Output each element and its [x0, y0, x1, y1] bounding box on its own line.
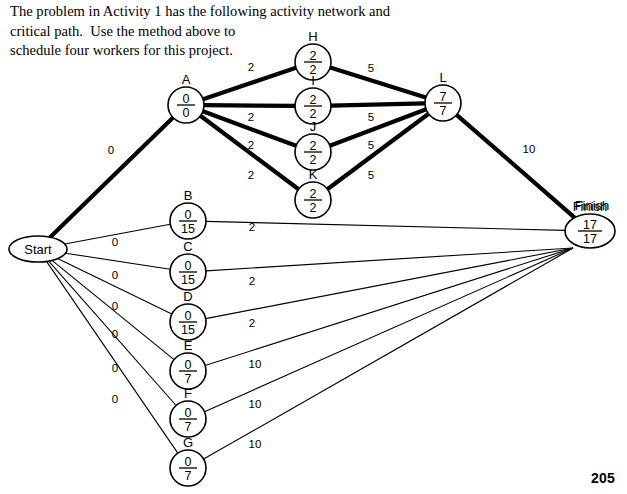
node-earliest-C: 0	[185, 259, 192, 273]
node-latest-K: 2	[310, 201, 317, 215]
node-earliest-A: 0	[183, 92, 190, 106]
edge-weight-D-finish: 2	[249, 317, 255, 329]
edge-E-finish	[205, 248, 573, 366]
edge-weight-F-finish: 10	[249, 398, 262, 410]
edge-weight-start-A: 0	[108, 144, 114, 156]
edge-weight-G-finish: 10	[249, 438, 262, 450]
node-A[interactable]: A00	[168, 72, 204, 123]
edge-L-finish	[457, 115, 575, 218]
node-label-B: B	[184, 188, 193, 203]
node-J[interactable]: J22	[295, 119, 331, 170]
node-latest-finish: 17	[583, 232, 597, 246]
edge-F-finish	[205, 248, 574, 412]
node-label-D: D	[183, 289, 192, 304]
edge-start-G	[47, 261, 178, 453]
node-finish[interactable]: Finish1717Finish	[565, 198, 615, 248]
node-earliest-B: 0	[185, 208, 192, 222]
node-label-K: K	[309, 167, 318, 182]
edge-D-finish	[206, 248, 573, 319]
node-earliest-I: 2	[310, 93, 317, 107]
edge-weight-J-L: 5	[368, 139, 374, 151]
edge-weight-start-F: 0	[112, 362, 118, 374]
edge-weight-C-finish: 2	[249, 275, 255, 287]
node-C[interactable]: C015	[170, 239, 206, 290]
edge-weight-B-finish: 2	[249, 221, 255, 233]
node-label-C: C	[183, 239, 192, 254]
node-F[interactable]: F07	[170, 386, 206, 437]
edge-weight-start-D: 0	[112, 300, 118, 312]
activity-network-diagram: 02222555510000000222101010 StartA00H22I2…	[0, 0, 627, 494]
edge-weight-start-G: 0	[112, 393, 118, 405]
node-latest-B: 15	[181, 222, 195, 236]
node-label-H: H	[308, 29, 317, 44]
edge-weight-start-B: 0	[112, 236, 118, 248]
node-earliest-finish: 17	[583, 218, 597, 232]
node-earliest-F: 0	[185, 406, 192, 420]
node-latest-J: 2	[310, 153, 317, 167]
node-B[interactable]: B015	[170, 188, 206, 239]
node-earliest-K: 2	[310, 187, 317, 201]
node-L[interactable]: L77	[425, 70, 461, 121]
edge-A-I	[204, 105, 295, 106]
edge-weight-A-I: 2	[248, 111, 254, 123]
node-E[interactable]: E07	[170, 338, 206, 389]
node-start[interactable]: Start	[9, 236, 67, 262]
edge-weight-H-L: 5	[368, 62, 374, 74]
node-earliest-D: 0	[185, 309, 192, 323]
node-label-E: E	[184, 338, 193, 353]
node-label-J: J	[310, 119, 317, 134]
edge-weight-I-L: 5	[368, 111, 374, 123]
page-number: 205	[591, 470, 615, 486]
node-earliest-G: 0	[185, 455, 192, 469]
edge-weight-K-L: 5	[368, 169, 374, 181]
node-latest-E: 7	[185, 372, 192, 386]
edge-B-finish	[206, 221, 565, 230]
edge-weight-A-J: 2	[248, 139, 254, 151]
node-G[interactable]: G07	[170, 435, 206, 486]
node-label-L: L	[439, 70, 446, 85]
node-latest-D: 15	[181, 323, 195, 337]
node-earliest-H: 2	[310, 49, 317, 63]
node-K[interactable]: K22	[295, 167, 331, 218]
edge-G-finish	[204, 248, 573, 459]
node-label-finish: Finish	[575, 198, 610, 213]
node-label-I: I	[311, 73, 315, 88]
node-latest-G: 7	[185, 469, 192, 483]
node-I[interactable]: I22	[295, 73, 331, 124]
edge-weight-A-K: 2	[248, 169, 254, 181]
node-earliest-J: 2	[310, 139, 317, 153]
edge-I-L	[331, 103, 425, 105]
node-label-G: G	[183, 435, 193, 450]
edge-C-finish	[206, 248, 573, 271]
edge-weight-start-C: 0	[112, 269, 118, 281]
node-earliest-L: 7	[440, 90, 447, 104]
node-label-F: F	[184, 386, 192, 401]
node-earliest-E: 0	[185, 358, 192, 372]
edge-start-C	[65, 253, 170, 269]
edge-weight-A-H: 2	[248, 61, 254, 73]
edge-H-L	[330, 67, 426, 97]
edge-weight-L-finish: 10	[523, 143, 536, 155]
edge-K-L	[327, 114, 428, 189]
node-text-start: Start	[24, 242, 52, 257]
node-latest-C: 15	[181, 273, 195, 287]
edge-start-A	[50, 118, 173, 238]
node-latest-A: 0	[183, 106, 190, 120]
edge-weight-E-finish: 10	[249, 358, 262, 370]
node-latest-L: 7	[440, 104, 447, 118]
node-label-A: A	[182, 72, 191, 87]
edge-weight-start-E: 0	[112, 328, 118, 340]
node-latest-F: 7	[185, 420, 192, 434]
node-D[interactable]: D015	[170, 289, 206, 340]
